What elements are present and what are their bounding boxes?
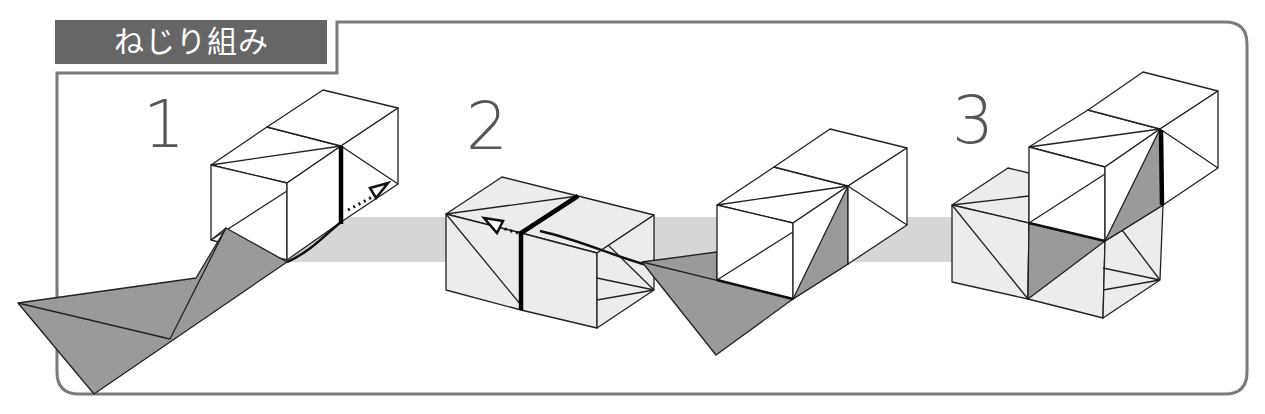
step-number-1: 1	[143, 92, 185, 158]
step-number-2: 2	[466, 94, 508, 160]
step-2-figure	[446, 177, 654, 328]
crease-mark	[1161, 130, 1162, 205]
origami-instruction-diagram: ねじり組み 1 2 3	[0, 0, 1265, 414]
guide-band	[290, 217, 1020, 262]
step-number-3: 3	[952, 88, 994, 154]
section-title: ねじり組み	[55, 20, 327, 64]
